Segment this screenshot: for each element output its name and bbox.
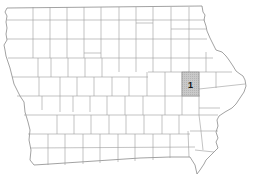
iowa-county-map: 1 bbox=[0, 0, 254, 183]
county-label: 1 bbox=[188, 80, 193, 90]
highlighted-county[interactable]: 1 bbox=[182, 72, 199, 96]
state-outline bbox=[4, 6, 246, 174]
